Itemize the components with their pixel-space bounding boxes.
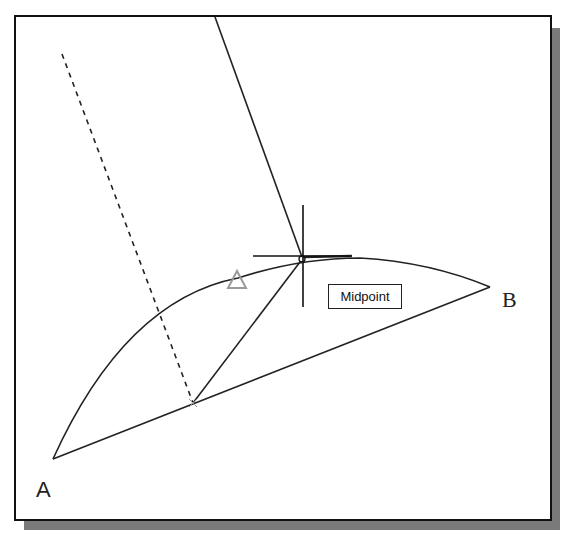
midpoint-to-arc-line bbox=[193, 262, 300, 403]
point-a-label: A bbox=[36, 479, 51, 501]
drawing-canvas[interactable] bbox=[0, 0, 563, 537]
rubber-band-line bbox=[215, 17, 302, 257]
osnap-tooltip: Midpoint bbox=[328, 284, 402, 309]
perpendicular-bisector-dashed bbox=[62, 54, 193, 403]
point-b-label: B bbox=[502, 289, 517, 311]
arc-ab bbox=[53, 258, 490, 459]
chord-ab bbox=[53, 287, 490, 459]
